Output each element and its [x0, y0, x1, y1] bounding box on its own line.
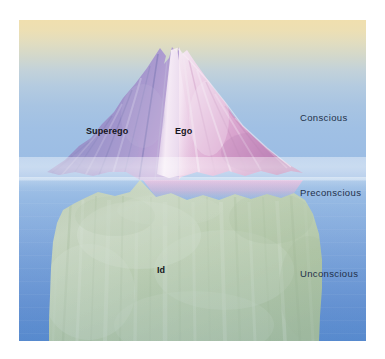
- label-preconscious: Preconscious: [300, 187, 361, 198]
- label-id: Id: [157, 265, 165, 275]
- iceberg-submerged-mass: [43, 180, 339, 341]
- label-superego: Superego: [86, 126, 128, 136]
- label-conscious: Conscious: [300, 112, 348, 123]
- photo-plate: Superego Ego Id Conscious Preconscious U…: [19, 20, 366, 341]
- preconscious-band: [19, 157, 366, 181]
- label-unconscious: Unconscious: [300, 268, 358, 279]
- iceberg-figure: Superego Ego Id Conscious Preconscious U…: [0, 0, 385, 359]
- label-ego: Ego: [175, 126, 192, 136]
- submerged-striations: [43, 192, 339, 341]
